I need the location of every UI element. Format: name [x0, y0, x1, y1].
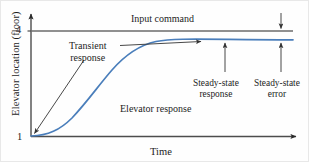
elevator-response-label: Elevator response [120, 103, 191, 114]
input-command-label: Input command [131, 13, 194, 24]
transient-response-label: Transient response [69, 40, 106, 63]
transient-arrow-to-knee [120, 42, 201, 46]
steady-state-response-label: Steady-state response [193, 78, 239, 100]
steady-state-error-label: Steady-state error [254, 78, 300, 100]
steady-state-response-label-line2: response [193, 89, 239, 100]
x-axis-label: Time [150, 146, 172, 158]
y-tick-label-4: 4 [16, 24, 21, 36]
transient-response-label-line1: Transient [69, 40, 106, 52]
steady-state-error-label-line1: Steady-state [254, 78, 300, 89]
elevator-step-response-figure: Elevator location (floor) Time 4 1 Input… [0, 0, 309, 162]
steady-state-response-label-line1: Steady-state [193, 78, 239, 89]
y-tick-label-1: 1 [17, 131, 22, 143]
transient-arrow-to-start [35, 60, 85, 134]
steady-state-error-label-line2: error [254, 89, 300, 100]
transient-response-label-line2: response [69, 52, 106, 64]
